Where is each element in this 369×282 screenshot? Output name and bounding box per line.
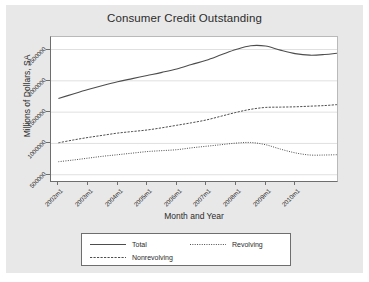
x-tick-mark-3 <box>146 181 147 185</box>
legend-entry-total[interactable]: Total <box>90 239 147 250</box>
series-line-nonrevolving <box>58 105 337 143</box>
chart-title: Consumer Credit Outstanding <box>6 12 363 24</box>
graph-region: Consumer Credit Outstanding Millions of … <box>6 5 363 273</box>
legend-label: Total <box>132 241 147 248</box>
legend-entry-revolving[interactable]: Revolving <box>190 239 263 250</box>
x-tick-mark-2 <box>117 181 118 185</box>
legend-key-dotted-icon <box>190 240 226 249</box>
x-tick-label-0: 2002m1 <box>38 187 64 213</box>
x-tick-mark-1 <box>87 181 88 185</box>
plot-svg <box>51 37 337 181</box>
y-tick-label-0: 500000 <box>21 171 47 197</box>
x-tick-label-4: 2006m1 <box>157 187 183 213</box>
x-tick-mark-8 <box>294 181 295 185</box>
legend-key-dashed-icon <box>90 253 126 262</box>
x-tick-label-7: 2009m1 <box>245 187 271 213</box>
x-tick-mark-0 <box>57 181 58 185</box>
legend-label: Nonrevolving <box>132 254 173 261</box>
chart-legend: TotalRevolvingNonrevolving <box>81 233 291 266</box>
plot-area <box>50 36 338 182</box>
x-tick-label-2: 2004m1 <box>97 187 123 213</box>
legend-label: Revolving <box>232 241 263 248</box>
x-tick-label-1: 2003m1 <box>68 187 94 213</box>
x-tick-label-6: 2008m1 <box>216 187 242 213</box>
series-line-total <box>58 45 337 98</box>
x-axis-title: Month and Year <box>50 211 338 221</box>
chart-figure: Consumer Credit Outstanding Millions of … <box>0 0 369 282</box>
x-tick-mark-6 <box>235 181 236 185</box>
series-line-revolving <box>58 142 337 161</box>
x-tick-label-8: 2010m1 <box>275 187 301 213</box>
legend-key-solid-icon <box>90 240 126 249</box>
legend-entry-nonrevolving[interactable]: Nonrevolving <box>90 252 173 263</box>
x-tick-mark-4 <box>176 181 177 185</box>
x-tick-mark-7 <box>265 181 266 185</box>
x-tick-mark-5 <box>205 181 206 185</box>
x-tick-label-5: 2007m1 <box>186 187 212 213</box>
x-tick-label-3: 2005m1 <box>127 187 153 213</box>
